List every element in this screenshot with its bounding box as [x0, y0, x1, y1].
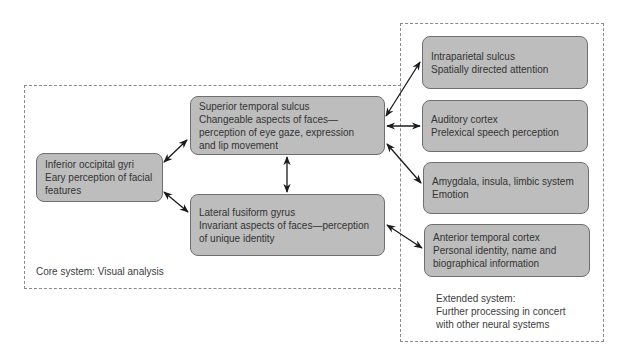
arrow-sts-intraparietal [386, 62, 420, 116]
arrow-lfg-anterior-temporal [387, 225, 422, 248]
connector-arrows [0, 0, 625, 356]
arrow-sts-amygdala [387, 144, 421, 183]
arrow-gyri-sts [164, 140, 187, 162]
arrow-gyri-lfg [164, 192, 188, 212]
